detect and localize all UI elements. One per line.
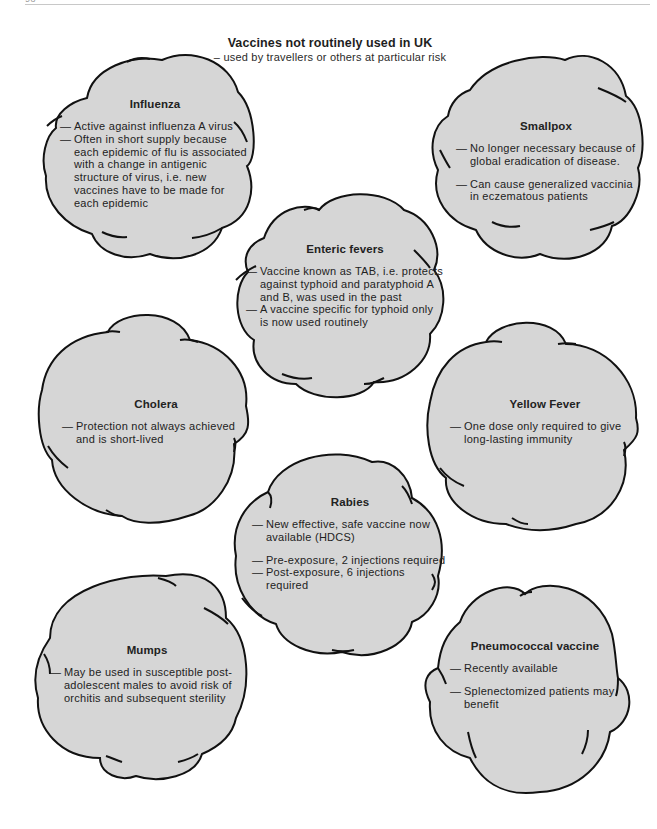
cloud-enteric-fevers: Enteric fevers Vaccine known as TAB, i.e… xyxy=(234,188,446,400)
cloud-pneumococcal: Pneumococcal vaccine Recently available … xyxy=(420,582,634,798)
cloud-title: Yellow Fever xyxy=(450,398,640,411)
cloud-title: Smallpox xyxy=(456,120,636,133)
cloud-point: Often in short supply because each epide… xyxy=(60,133,250,210)
cloud-title: Enteric fevers xyxy=(246,243,444,256)
cloud-point: A vaccine specific for typhoid only is n… xyxy=(246,303,444,329)
cloud-smallpox: Smallpox No longer necessary because of … xyxy=(430,50,644,266)
cloud-title: Mumps xyxy=(50,644,244,657)
cloud-point: One dose only required to give long-last… xyxy=(450,420,640,446)
cloud-title: Cholera xyxy=(62,398,250,411)
cloud-mumps: Mumps May be used in susceptible post-ad… xyxy=(36,568,248,784)
cloud-yellow-fever: Yellow Fever One dose only required to g… xyxy=(426,318,640,532)
cloud-point: Can cause generalized vaccinia in eczema… xyxy=(456,178,636,204)
cloud-influenza: Influenza Active against influenza A vir… xyxy=(42,48,254,263)
cloud-rabies: Rabies New effective, safe vaccine now a… xyxy=(232,446,446,660)
cloud-point: May be used in susceptible post-adolesce… xyxy=(50,666,244,704)
cloud-point: Recently available xyxy=(450,662,634,675)
cloud-cholera: Cholera Protection not always achieved a… xyxy=(38,310,250,526)
cloud-point: Vaccine known as TAB, i.e. protects agai… xyxy=(246,265,444,303)
cloud-point: Pre-exposure, 2 injections required xyxy=(252,554,448,567)
cloud-point: New effective, safe vaccine now availabl… xyxy=(252,518,448,544)
cloud-point: Splenectomized patients may benefit xyxy=(450,685,634,711)
cloud-point: Protection not always achieved and is sh… xyxy=(62,420,250,446)
cloud-title: Influenza xyxy=(60,98,250,111)
cloud-title: Pneumococcal vaccine xyxy=(460,640,610,653)
header-rule xyxy=(25,4,650,5)
cloud-title: Rabies xyxy=(252,496,448,509)
cloud-point: Active against influenza A virus xyxy=(60,120,250,133)
cloud-point: Post-exposure, 6 injections required xyxy=(252,566,448,592)
cloud-point: No longer necessary because of global er… xyxy=(456,142,636,168)
